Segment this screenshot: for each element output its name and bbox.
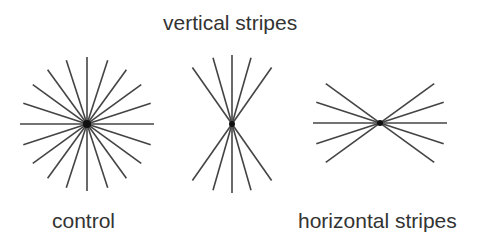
horizontal-stripes-star-icon bbox=[313, 84, 447, 163]
label-control: control bbox=[52, 210, 115, 231]
star-center bbox=[83, 120, 91, 128]
label-vertical-stripes: vertical stripes bbox=[163, 12, 297, 33]
star-center bbox=[377, 120, 383, 126]
vertical-stripes-star-icon bbox=[192, 55, 271, 193]
control-star-icon bbox=[20, 57, 154, 191]
label-horizontal-stripes: horizontal stripes bbox=[298, 210, 457, 231]
star-center bbox=[229, 121, 235, 127]
orientation-diagram: vertical stripes control horizontal stri… bbox=[0, 0, 481, 250]
